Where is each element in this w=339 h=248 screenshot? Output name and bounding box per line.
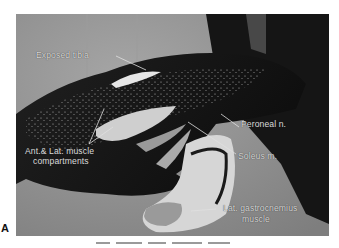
figure-panel-letter: A: [1, 222, 9, 234]
figure-caption-cropped: [96, 242, 296, 248]
label-soleus-muscle: Soleus m.: [238, 152, 277, 161]
label-ant-lat-compartments-line1: Ant.& Lat. muscle: [25, 147, 94, 156]
surgical-photo: Exposed tibia Ant.& Lat. muscle compartm…: [16, 14, 329, 236]
label-peroneal-nerve: Peroneal n.: [241, 120, 286, 129]
label-exposed-tibia: Exposed tibia: [36, 51, 89, 60]
label-ant-lat-compartments-line2: compartments: [33, 157, 89, 166]
label-lat-gastrocnemius-line1: Lat. gastrocnemius: [223, 204, 297, 213]
label-lat-gastrocnemius-line2: muscle: [242, 215, 270, 224]
